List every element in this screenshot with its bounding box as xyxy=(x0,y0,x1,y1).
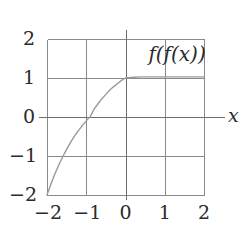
x-tick-label: 2 xyxy=(191,203,217,222)
x-tick-label: 0 xyxy=(113,203,139,222)
y-tick-label: 1 xyxy=(9,68,35,87)
y-tick-label: 0 xyxy=(9,107,35,126)
y-tick-label: 2 xyxy=(9,29,35,48)
x-tick-label: −2 xyxy=(34,203,60,222)
y-tick-label: −1 xyxy=(9,146,35,165)
x-axis-label: x xyxy=(228,106,239,125)
plot-svg xyxy=(0,0,252,229)
series-label-f-of-f-of-x: f(f(x)) xyxy=(148,44,205,64)
figure-canvas: 210−1−2 −2−1012 x f(f(x)) xyxy=(0,0,252,229)
y-tick-label: −2 xyxy=(9,185,35,204)
x-tick-label: 1 xyxy=(152,203,178,222)
x-tick-label: −1 xyxy=(73,203,99,222)
